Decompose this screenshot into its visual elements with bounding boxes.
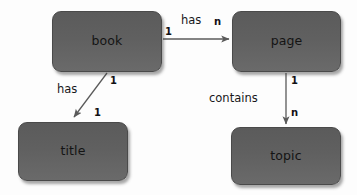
entity-topic-label: topic (270, 150, 301, 163)
cardinality-book-has-page-source: 1 (165, 27, 172, 37)
cardinality-book-has-title-target: 1 (94, 108, 101, 118)
relationship-label-book-has-title: has (57, 84, 77, 96)
entity-page-label: page (271, 35, 303, 48)
entity-title[interactable]: title (18, 122, 128, 181)
cardinality-book-has-title-source: 1 (110, 76, 117, 86)
cardinality-page-contains-topic-target: n (291, 108, 298, 118)
cardinality-page-contains-topic-source: 1 (291, 76, 298, 86)
edge-book-has-title (74, 73, 107, 117)
entity-book[interactable]: book (52, 11, 162, 72)
entity-topic[interactable]: topic (231, 127, 341, 185)
entity-page[interactable]: page (232, 11, 341, 72)
relationship-label-page-contains-topic: contains (209, 93, 258, 105)
er-diagram-canvas: book page title topic has has contains 1… (0, 0, 357, 195)
cardinality-book-has-page-target: n (214, 17, 221, 27)
relationship-label-book-has-page: has (181, 15, 201, 27)
entity-title-label: title (61, 145, 86, 158)
entity-book-label: book (92, 35, 123, 48)
